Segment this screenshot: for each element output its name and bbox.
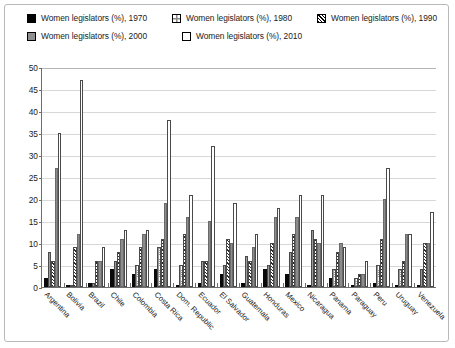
x-tick-label: Venezuela (416, 290, 447, 321)
bar-groups (42, 68, 436, 287)
legend-item-1970[interactable]: Women legislators (%), 1970 (27, 14, 172, 23)
bar[interactable] (255, 234, 258, 287)
x-axis-cell: Brazil (85, 289, 107, 348)
y-tick-label-50: 50 (29, 63, 38, 73)
bar-group (392, 68, 414, 287)
x-tick-label: Brazil (86, 290, 106, 310)
bar[interactable] (233, 203, 236, 287)
legend-swatch-1990-icon (317, 14, 326, 23)
bar-group (261, 68, 283, 287)
y-tick-label-10: 10 (29, 239, 38, 249)
x-axis-cell: Colombia (129, 289, 151, 348)
x-axis-cell: Paraguay (348, 289, 370, 348)
bar-group (348, 68, 370, 287)
bar-group (327, 68, 349, 287)
bar[interactable] (386, 168, 389, 287)
x-axis-cell: Argentina (41, 289, 63, 348)
x-axis-cell: Nicaragua (304, 289, 326, 348)
y-tick-label-30: 30 (29, 151, 38, 161)
x-axis-cell: El Salvador (217, 289, 239, 348)
legend-item-1980[interactable]: Women legislators (%), 1980 (172, 14, 317, 23)
bar-group (305, 68, 327, 287)
x-axis-cell: Venezuela (414, 289, 436, 348)
x-axis-cell: Guatemala (238, 289, 260, 348)
bar-group (217, 68, 239, 287)
chart-screenshot: Women legislators (%), 1970 Women legisl… (0, 0, 455, 348)
bar-group (195, 68, 217, 287)
bar[interactable] (167, 120, 170, 287)
legend-row-1: Women legislators (%), 1970 Women legisl… (27, 14, 437, 32)
bar-group (370, 68, 392, 287)
bar[interactable] (430, 212, 433, 287)
plot-area: 05101520253035404550 (41, 68, 436, 288)
y-tick-label-0: 0 (33, 283, 38, 293)
bar-group (283, 68, 305, 287)
legend-label-1970: Women legislators (%), 1970 (41, 14, 147, 23)
x-axis-cell: Honduras (260, 289, 282, 348)
x-axis-cell: Mexico (282, 289, 304, 348)
chart-legend: Women legislators (%), 1970 Women legisl… (27, 14, 437, 50)
legend-swatch-2010-icon (182, 32, 191, 41)
bar[interactable] (80, 80, 83, 287)
legend-swatch-2000-icon (27, 32, 36, 41)
legend-label-2000: Women legislators (%), 2000 (41, 32, 147, 41)
bar[interactable] (321, 195, 324, 287)
y-tick-label-5: 5 (33, 261, 38, 271)
x-tick-label: Bolivia (65, 290, 87, 312)
bar-group (64, 68, 86, 287)
bar[interactable] (277, 208, 280, 287)
y-tick-label-35: 35 (29, 129, 38, 139)
bar-group (108, 68, 130, 287)
legend-item-2010[interactable]: Women legislators (%), 2010 (182, 32, 302, 41)
x-axis-cell: Peru (370, 289, 392, 348)
x-axis-cell: Ecuador (195, 289, 217, 348)
x-tick-label: Peru (372, 290, 390, 308)
bar[interactable] (408, 234, 411, 287)
x-axis-cell: Costa Rica (151, 289, 173, 348)
y-tick-label-40: 40 (29, 107, 38, 117)
bar[interactable] (58, 133, 61, 287)
legend-swatch-1980-icon (172, 14, 181, 23)
bar[interactable] (146, 230, 149, 287)
bar[interactable] (189, 195, 192, 287)
x-axis-cell: Uruguay (392, 289, 414, 348)
bar[interactable] (343, 247, 346, 287)
x-axis-cell: Chile (107, 289, 129, 348)
y-tick-label-20: 20 (29, 195, 38, 205)
bar[interactable] (211, 146, 214, 287)
bar-group (173, 68, 195, 287)
legend-item-2000[interactable]: Women legislators (%), 2000 (27, 32, 182, 41)
bar[interactable] (102, 247, 105, 287)
x-tick-label: Chile (108, 290, 127, 309)
x-axis-cell: Bolivia (63, 289, 85, 348)
bar[interactable] (299, 195, 302, 287)
x-axis-labels: ArgentinaBoliviaBrazilChileColombiaCosta… (41, 289, 436, 348)
bar[interactable] (124, 230, 127, 287)
legend-swatch-1970-icon (27, 14, 36, 23)
bar-group (151, 68, 173, 287)
legend-item-1990[interactable]: Women legislators (%), 1990 (317, 14, 437, 23)
legend-label-1990: Women legislators (%), 1990 (331, 14, 437, 23)
bar-group (42, 68, 64, 287)
chart-card: Women legislators (%), 1970 Women legisl… (4, 4, 449, 342)
bar-group (414, 68, 436, 287)
x-axis-cell: Panama (326, 289, 348, 348)
bar-group (86, 68, 108, 287)
legend-row-2: Women legislators (%), 2000 Women legisl… (27, 32, 437, 50)
x-axis-cell: Dom. Republic (173, 289, 195, 348)
y-tick-label-15: 15 (29, 217, 38, 227)
bar-group (239, 68, 261, 287)
legend-label-2010: Women legislators (%), 2010 (196, 32, 302, 41)
bar-group (130, 68, 152, 287)
bar[interactable] (365, 261, 368, 287)
y-tick-label-25: 25 (29, 173, 38, 183)
legend-label-1980: Women legislators (%), 1980 (186, 14, 292, 23)
y-tick-label-45: 45 (29, 85, 38, 95)
